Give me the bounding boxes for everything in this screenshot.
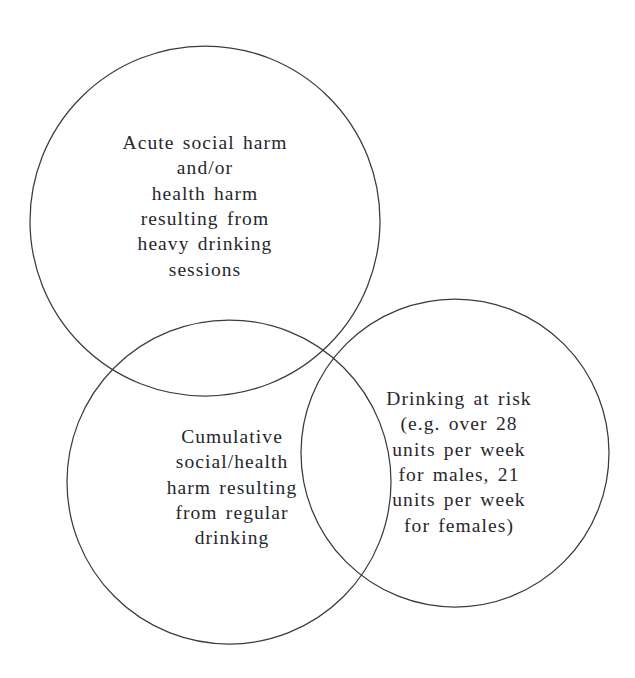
circle-acute-harm (30, 46, 380, 396)
circle-drinking-at-risk (301, 299, 609, 607)
circle-cumulative-harm (67, 320, 391, 644)
venn-circles-graphic (0, 0, 635, 678)
venn-diagram: Acute social harm and/or health harm res… (0, 0, 635, 678)
